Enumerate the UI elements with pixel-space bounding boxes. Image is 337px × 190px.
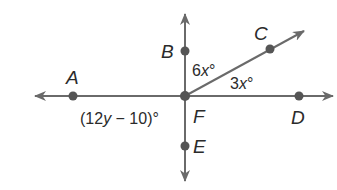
label-c: C <box>254 23 268 44</box>
label-a: A <box>65 67 79 88</box>
point-d <box>295 92 304 101</box>
angle-afe-label: (12y − 10)° <box>80 110 159 127</box>
label-e: E <box>193 136 206 157</box>
point-c <box>266 45 275 54</box>
angle-cfd-label: 3x° <box>230 75 253 92</box>
geometry-diagram: A B C D E F 6x° 3x° (12y − 10)° <box>0 0 337 190</box>
angle-bfc-label: 6x° <box>192 62 215 79</box>
point-a <box>69 92 78 101</box>
label-f: F <box>193 106 206 127</box>
point-e <box>181 142 190 151</box>
point-f <box>180 91 190 101</box>
label-d: D <box>291 107 305 128</box>
label-b: B <box>161 41 174 62</box>
point-b <box>181 47 190 56</box>
